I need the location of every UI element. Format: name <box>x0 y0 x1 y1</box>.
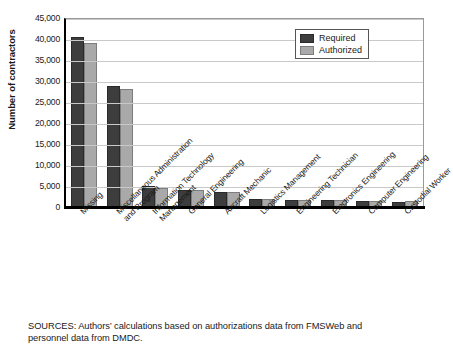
bar-required <box>107 86 120 207</box>
gridline <box>66 103 423 104</box>
y-tick-35000: 35,000 <box>35 55 60 65</box>
chart-legend: Required Authorized <box>295 29 369 59</box>
source-note-line-2: personnel data from DMDC. <box>28 333 428 345</box>
gridline <box>66 61 423 62</box>
source-note: SOURCES: Authors’ calculations based on … <box>28 321 428 344</box>
source-note-line-1: SOURCES: Authors’ calculations based on … <box>28 321 428 333</box>
y-tick-0: 0 <box>55 202 60 212</box>
y-axis-tick-labels: 45,00040,00035,00030,00025,00020,00015,0… <box>22 0 60 230</box>
y-axis-title: Number of contractors <box>6 15 17 145</box>
bar-authorized <box>120 89 133 207</box>
y-tick-20000: 20,000 <box>35 118 60 128</box>
gridline <box>66 82 423 83</box>
bar-required <box>71 37 84 207</box>
legend-label-authorized: Authorized <box>319 45 362 55</box>
gridline <box>66 145 423 146</box>
y-tick-40000: 40,000 <box>35 34 60 44</box>
bar-group <box>102 19 138 207</box>
authorized-swatch-icon <box>300 46 314 55</box>
legend-item-authorized: Authorized <box>300 45 362 55</box>
legend-label-required: Required <box>319 33 356 43</box>
gridline <box>66 40 423 41</box>
y-tick-30000: 30,000 <box>35 76 60 86</box>
legend-item-required: Required <box>300 33 362 43</box>
gridline <box>66 166 423 167</box>
y-tick-10000: 10,000 <box>35 160 60 170</box>
gridline <box>66 19 423 20</box>
required-swatch-icon <box>300 34 314 43</box>
y-tick-25000: 25,000 <box>35 97 60 107</box>
y-tick-45000: 45,000 <box>35 13 60 23</box>
plot-container: Number of contractors 45,00040,00035,000… <box>0 0 438 230</box>
y-tick-5000: 5,000 <box>39 181 60 191</box>
y-tick-15000: 15,000 <box>35 139 60 149</box>
bar-group <box>66 19 102 207</box>
gridline <box>66 124 423 125</box>
x-axis-tick-labels: MissingMiscellaneous Administrationand P… <box>64 209 424 305</box>
